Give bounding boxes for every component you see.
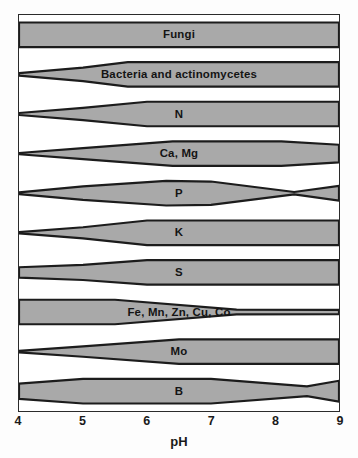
chart-root: FungiBacteria and actinomycetesNCa, MgPK… xyxy=(0,0,358,458)
x-axis-tick-9: 9 xyxy=(337,414,344,428)
x-axis-tick-6: 6 xyxy=(143,414,150,428)
band-label: K xyxy=(175,226,184,238)
x-axis: 456789 pH xyxy=(18,412,340,458)
band-label: Fe, Mn, Zn, Cu, Co xyxy=(127,306,230,318)
band-label: Ca, Mg xyxy=(160,147,199,159)
band-label: Fungi xyxy=(163,28,195,40)
x-axis-tick-4: 4 xyxy=(15,414,22,428)
x-axis-tick-7: 7 xyxy=(208,414,215,428)
band-label: B xyxy=(175,385,183,397)
band-label: Bacteria and actinomycetes xyxy=(101,68,257,80)
band-label: N xyxy=(175,108,183,120)
bands-svg: FungiBacteria and actinomycetesNCa, MgPK… xyxy=(19,15,339,411)
plot-area: FungiBacteria and actinomycetesNCa, MgPK… xyxy=(18,14,340,412)
x-axis-title: pH xyxy=(18,434,340,449)
band-label: S xyxy=(175,266,183,278)
band-label: P xyxy=(175,187,183,199)
x-axis-tick-8: 8 xyxy=(272,414,279,428)
band-label: Mo xyxy=(171,345,188,357)
x-axis-tick-5: 5 xyxy=(79,414,86,428)
